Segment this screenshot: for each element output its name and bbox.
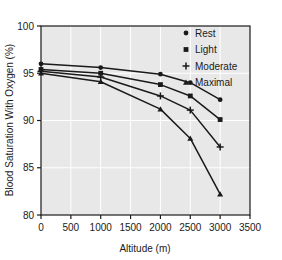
x-tick-label: 3000 (209, 222, 232, 233)
y-tick-label: 100 (17, 21, 34, 32)
legend-marker-light (184, 47, 189, 52)
legend-label-light: Light (195, 44, 217, 55)
data-point-light (188, 94, 193, 99)
x-tick-label: 2500 (179, 222, 202, 233)
x-tick-label: 3500 (239, 222, 262, 233)
x-axis-label: Altitude (m) (119, 243, 170, 254)
legend-label-maximal: Maximal (195, 77, 232, 88)
x-tick-label: 500 (63, 222, 80, 233)
data-point-rest (158, 72, 163, 77)
chart-figure: 0500100015002000250030003500 80859095100… (0, 0, 282, 260)
data-point-light (218, 117, 223, 122)
x-tick-label: 1500 (119, 222, 142, 233)
legend-marker-rest (184, 31, 189, 36)
data-point-light (158, 82, 163, 87)
y-axis-label: Blood Saturation With Oxygen (%) (4, 44, 15, 196)
x-tick-label: 1000 (90, 222, 113, 233)
legend-label-rest: Rest (195, 28, 216, 39)
y-tick-label: 80 (23, 210, 35, 221)
x-tick-label: 0 (38, 222, 44, 233)
data-point-rest (98, 65, 103, 70)
data-point-rest (218, 97, 223, 102)
x-tick-label: 2000 (149, 222, 172, 233)
y-tick-label: 90 (23, 115, 35, 126)
y-tick-label: 85 (23, 162, 35, 173)
y-tick-label: 95 (23, 68, 35, 79)
legend-label-moderate: Moderate (195, 61, 238, 72)
